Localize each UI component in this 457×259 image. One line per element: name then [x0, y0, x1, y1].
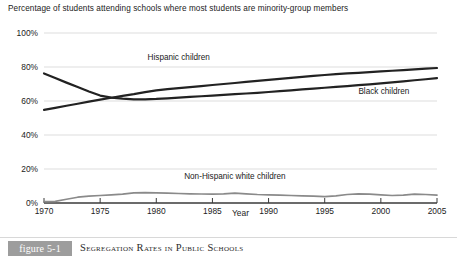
x-tick-label: 2000 [372, 206, 391, 216]
figure-caption-text: Segregation Rates in Public Schools [80, 242, 244, 253]
x-tick-label: 1980 [147, 206, 166, 216]
y-tick-label: 80% [21, 62, 38, 72]
y-tick-label: 40% [21, 130, 38, 140]
x-tick-label: 2005 [428, 206, 447, 216]
line-chart-svg: 0%20%40%60%80%100% 197019751980198519901… [0, 20, 457, 220]
x-axis-title: Year [232, 208, 249, 218]
plot-area: 0%20%40%60%80%100% 197019751980198519901… [0, 20, 457, 220]
x-tick-label: 1985 [203, 206, 222, 216]
y-axis-tick-labels: 0%20%40%60%80%100% [17, 28, 39, 208]
figure-caption-bar: figure 5-1 Segregation Rates in Public S… [0, 237, 457, 259]
x-tick-label: 1995 [315, 206, 334, 216]
x-axis [44, 198, 437, 203]
series-label-2: Black children [358, 87, 409, 96]
y-tick-label: 60% [21, 96, 38, 106]
x-tick-label: 1970 [35, 206, 54, 216]
series-label-1: Hispanic children [148, 53, 211, 62]
figure-number-badge: figure 5-1 [8, 241, 72, 256]
figure-container: Percentage of students attending schools… [0, 0, 457, 259]
y-tick-label: 20% [21, 164, 38, 174]
chart-title: Percentage of students attending schools… [8, 4, 348, 13]
series-line-3 [44, 193, 437, 202]
series-label-3: Non-Hispanic white children [184, 172, 286, 181]
y-tick-label: 100% [17, 28, 39, 38]
x-tick-label: 1990 [259, 206, 278, 216]
x-tick-label: 1975 [91, 206, 110, 216]
